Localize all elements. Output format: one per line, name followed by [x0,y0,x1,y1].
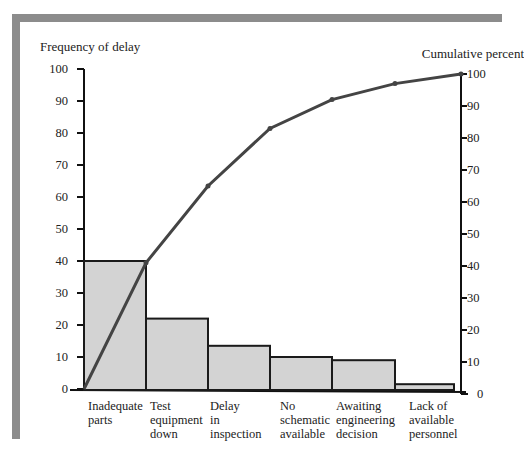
left-tick-label: 30 [56,286,69,300]
left-tick-label: 0 [62,382,68,396]
left-tick-label: 20 [56,318,69,332]
left-tick-label: 90 [56,94,69,108]
bar [270,357,332,390]
left-tick-label: 80 [56,126,69,140]
right-tick-label: 40 [467,259,480,273]
category-label: Testequipmentdown [150,399,203,441]
left-tick-label: 60 [56,190,69,204]
category-label: Lack ofavailablepersonnel [409,399,458,441]
bar [332,360,395,390]
cumulative-point [330,97,335,102]
right-axis: 0102030405060708090100 [461,67,486,401]
right-tick-label: 90 [467,99,480,113]
right-tick-label: 80 [467,131,480,145]
cumulative-point [393,81,398,86]
pareto-chart: Frequency of delay Cumulative percent 01… [0,0,524,455]
right-tick-label: 30 [467,291,480,305]
left-tick-label: 10 [56,350,69,364]
left-tick-label: 40 [56,254,69,268]
bar [395,384,454,390]
category-label: Delayininspection [210,399,262,441]
category-label: Noschematicavailable [280,399,330,441]
cumulative-point [268,126,273,131]
right-axis-title: Cumulative percent [422,46,524,61]
category-label: Inadequateparts [88,399,143,427]
left-tick-label: 100 [49,62,68,76]
right-tick-label: 0 [477,387,483,401]
right-tick-label: 50 [467,227,480,241]
category-labels: InadequatepartsTestequipmentdownDelayini… [88,399,458,441]
bars [84,261,454,390]
bar [208,346,270,390]
cumulative-point [206,184,211,189]
cumulative-point [144,260,149,265]
right-tick-label: 10 [467,355,480,369]
right-tick-label: 60 [467,195,480,209]
left-tick-label: 70 [56,158,69,172]
right-tick-label: 20 [467,323,480,337]
bar [146,319,208,390]
left-tick-label: 50 [56,222,69,236]
category-label: Awaitingengineeringdecision [336,399,396,441]
left-axis-title: Frequency of delay [40,39,141,54]
cumulative-point [459,72,464,77]
right-tick-label: 100 [467,67,486,81]
right-tick-label: 70 [467,163,480,177]
